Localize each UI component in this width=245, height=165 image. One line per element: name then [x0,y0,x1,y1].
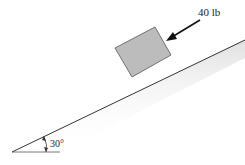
force-label: 40 lb [198,6,221,18]
force-arrow-icon [166,20,200,41]
angle-label: 30° [50,138,64,149]
block [115,27,171,77]
diagram-canvas: 40 lb 30° [0,0,245,165]
incline-diagram: 40 lb 30° [0,0,245,165]
